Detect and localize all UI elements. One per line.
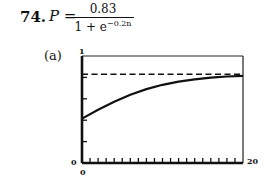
x-min-label: 0 bbox=[80, 167, 86, 177]
x-max-label: 20 bbox=[247, 156, 259, 166]
y-max-label: 1 bbox=[79, 46, 85, 56]
chart: 10020 bbox=[0, 0, 267, 181]
curve-line bbox=[82, 76, 243, 119]
y-min-label: 0 bbox=[71, 157, 77, 167]
